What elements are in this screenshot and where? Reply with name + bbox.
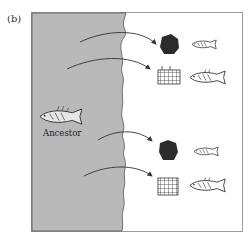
rock-icon xyxy=(159,140,178,160)
vegetation-grid-icon xyxy=(158,178,178,195)
diagram-canvas xyxy=(0,0,250,242)
vegetation-grid-icon xyxy=(158,70,180,84)
ancestor-label: Ancestor xyxy=(43,128,81,138)
